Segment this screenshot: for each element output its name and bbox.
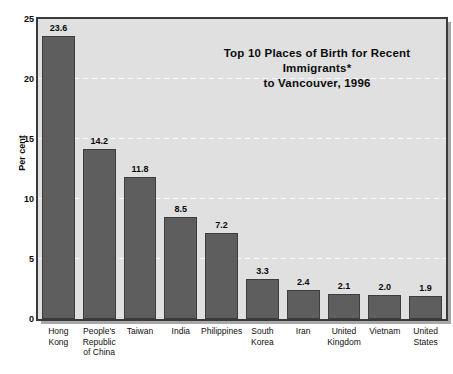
bar-2: [124, 177, 157, 319]
x-axis-label-7-line-2: Kingdom: [320, 337, 369, 348]
chart-figure: Per cent 0510152025 23.614.211.88.57.23.…: [0, 0, 453, 374]
y-axis-ticks: 0510152025: [8, 0, 34, 374]
bar-value-label-7: 2.1: [322, 282, 367, 291]
plot-frame: 23.614.211.88.57.23.32.42.12.01.9 Top 10…: [36, 17, 448, 321]
bar-value-label-1: 14.2: [77, 137, 122, 146]
bar-9: [409, 296, 442, 319]
bar-value-label-4: 7.2: [199, 221, 244, 230]
bar-7: [328, 294, 361, 319]
chart-title-line-1: Top 10 Places of Birth for Recent Immigr…: [188, 46, 446, 76]
bar-value-label-6: 2.4: [281, 278, 326, 287]
bar-value-label-5: 3.3: [240, 267, 285, 276]
bar-6: [287, 290, 320, 319]
bar-value-label-9: 1.9: [403, 284, 448, 293]
x-axis-label-9-line-1: United: [401, 326, 450, 337]
y-tick-label-20: 20: [12, 75, 34, 84]
x-axis-label-5-line-2: Korea: [238, 337, 287, 348]
bar-value-label-8: 2.0: [362, 283, 407, 292]
y-tick-label-0: 0: [12, 315, 34, 324]
y-tick-label-10: 10: [12, 195, 34, 204]
bar-value-label-2: 11.8: [118, 165, 163, 174]
chart-title: Top 10 Places of Birth for Recent Immigr…: [188, 46, 446, 91]
bar-1: [83, 149, 116, 319]
chart-title-line-2: to Vancouver, 1996: [188, 76, 446, 91]
x-axis-label-9: UnitedStates: [401, 326, 450, 347]
x-axis-label-9-line-2: States: [401, 337, 450, 348]
x-axis-label-1-line-3: of China: [75, 347, 124, 358]
x-axis-labels: HongKongPeople'sRepublicof ChinaTaiwanIn…: [36, 326, 448, 374]
y-tick-label-5: 5: [12, 255, 34, 264]
bar-3: [164, 217, 197, 319]
y-tick-label-15: 15: [12, 135, 34, 144]
x-axis-label-1-line-2: Republic: [75, 337, 124, 348]
bar-5: [246, 279, 279, 319]
bar-0: [42, 36, 75, 319]
bar-8: [368, 295, 401, 319]
bar-4: [205, 233, 238, 319]
y-tick-label-25: 25: [12, 15, 34, 24]
bar-value-label-3: 8.5: [158, 205, 203, 214]
bar-value-label-0: 23.6: [36, 24, 81, 33]
